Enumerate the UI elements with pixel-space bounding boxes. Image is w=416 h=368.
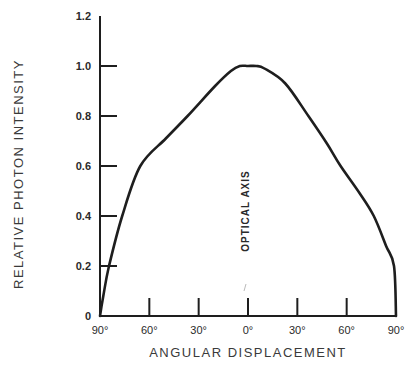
x-tick-label: 60° xyxy=(338,324,355,336)
y-tick-label: 0 xyxy=(85,310,91,322)
optical-axis-annotation: OPTICAL AXIS xyxy=(240,170,251,251)
y-tick-label: 0.6 xyxy=(76,160,91,172)
x-tick-label: 90° xyxy=(388,324,405,336)
y-tick-label: 0.8 xyxy=(76,110,91,122)
y-tick-label: 1.0 xyxy=(76,60,91,72)
x-tick-label: 90° xyxy=(92,324,109,336)
x-tick-label: 30° xyxy=(190,324,207,336)
y-axis-ticks: 00.20.40.60.81.01.2 xyxy=(76,10,117,322)
y-tick-label: 1.2 xyxy=(76,10,91,22)
x-tick-label: 30° xyxy=(289,324,306,336)
axes xyxy=(99,16,396,316)
y-tick-label: 0.4 xyxy=(76,210,92,222)
y-tick-label: 0.2 xyxy=(76,260,91,272)
x-tick-label: 60° xyxy=(141,324,158,336)
x-axis-title: ANGULAR DISPLACEMENT xyxy=(149,345,347,360)
x-tick-label: 0° xyxy=(243,324,254,336)
y-axis-title: RELATIVE PHOTON INTENSITY xyxy=(11,59,26,289)
chart: 00.20.40.60.81.01.2 90°60°30°0°30°60°90°… xyxy=(0,0,416,368)
optical-axis-mark xyxy=(244,284,246,291)
